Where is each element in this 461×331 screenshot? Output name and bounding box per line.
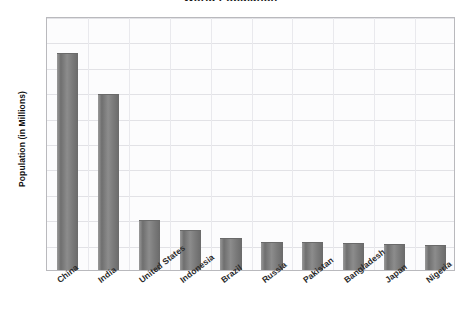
bar-chart: World Population Population (in Millions…	[0, 0, 461, 331]
x-tick-label: Bangladesh	[342, 247, 387, 285]
x-tick-label: India	[96, 264, 118, 284]
x-tick-label: Russia	[260, 259, 289, 284]
x-tick-label: Nigeria	[424, 259, 453, 285]
x-tick-label: Japan	[383, 262, 409, 285]
x-tick-label: Brazil	[219, 262, 244, 285]
x-tick-label: China	[55, 262, 80, 285]
x-tick-label: Indonesia	[178, 252, 216, 285]
x-tick-label: Pakistan	[301, 255, 335, 285]
x-axis-tick-labels: ChinaIndiaUnited StatesIndonesiaBrazilRu…	[0, 0, 461, 331]
